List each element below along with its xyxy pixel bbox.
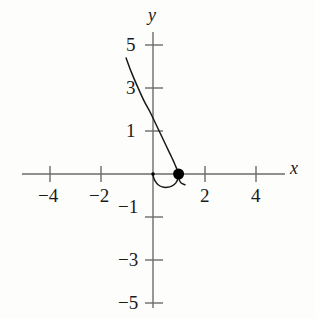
y-tick-label--5: −5 — [118, 293, 138, 312]
x-tick-label--4: −4 — [38, 186, 58, 205]
origin-point-marker — [151, 172, 155, 176]
coordinate-plane — [0, 0, 315, 318]
y-tick-label-1: 1 — [126, 121, 136, 140]
y-tick-label--1: −1 — [118, 197, 138, 216]
y-tick-label-3: 3 — [126, 78, 136, 97]
x-axis-label: x — [290, 159, 298, 177]
y-tick-label-5: 5 — [126, 35, 136, 54]
graph-figure: −4 −2 2 4 5 3 1 −1 −3 −5 x y — [0, 0, 315, 318]
x-tick-label-2: 2 — [200, 186, 210, 205]
x-tick-label-4: 4 — [251, 186, 261, 205]
x-tick-label--2: −2 — [89, 186, 109, 205]
axes-group — [22, 32, 285, 308]
highlighted-point-marker — [173, 169, 184, 180]
y-tick-label--3: −3 — [118, 250, 138, 269]
y-axis-label: y — [148, 6, 156, 24]
